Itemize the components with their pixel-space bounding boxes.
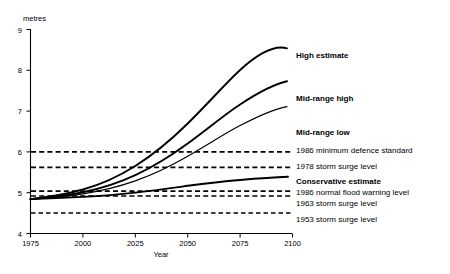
y-tick-marks (27, 30, 31, 234)
y-axis-title: metres (23, 14, 46, 23)
x-tick-label-1975: 1975 (22, 239, 39, 248)
annotation-mid-range-high: Mid-range high (296, 94, 353, 103)
annotation-1986-normal-flood-warning-level: 1986 normal flood warning level (296, 188, 409, 197)
x-tick-label-2000: 2000 (75, 239, 92, 248)
annotation-high-estimate: High estimate (296, 51, 349, 60)
curve-high-estimate (31, 48, 288, 200)
x-tick-marks (31, 234, 293, 238)
curve-mid-range-high (31, 81, 288, 199)
annotation-1986-minimum-defence-standard: 1986 minimum defence standard (296, 146, 413, 155)
x-axis-title: Year (153, 250, 169, 259)
curve-mid-range-low (31, 107, 288, 200)
sea-level-rise-chart: 9 8 7 6 5 4 metres 1975 2000 2025 2050 2… (0, 0, 450, 274)
y-tick-label-8: 8 (18, 66, 22, 75)
annotation-1963-storm-surge-level: 1963 storm surge level (296, 199, 377, 208)
y-tick-label-7: 7 (18, 107, 22, 116)
annotation-1953-storm-surge-level: 1953 storm surge level (296, 215, 377, 224)
y-tick-label-4: 4 (18, 230, 22, 239)
annotation-1978-storm-surge-level: 1978 storm surge level (296, 162, 377, 171)
x-tick-label-2050: 2050 (179, 239, 196, 248)
x-tick-label-2100: 2100 (284, 239, 301, 248)
y-tick-label-5: 5 (18, 189, 22, 198)
annotation-mid-range-low: Mid-range low (296, 128, 351, 137)
x-tick-label-2075: 2075 (232, 239, 249, 248)
y-tick-label-6: 6 (18, 148, 22, 157)
y-tick-label-9: 9 (18, 26, 22, 35)
x-tick-label-2025: 2025 (127, 239, 144, 248)
annotation-conservative-estimate: Conservative estimate (296, 177, 381, 186)
